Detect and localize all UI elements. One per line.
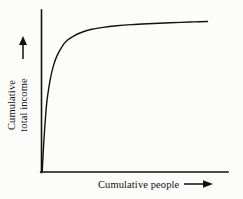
y-axis-label-group: Cumulative total income (6, 34, 40, 160)
arrow-right-icon (184, 178, 214, 190)
x-axis-label-group: Cumulative people (98, 176, 214, 192)
y-axis-label-line-1: Cumulative (6, 44, 18, 166)
y-axis-label-line-2: total income (18, 44, 30, 166)
y-axis-label: Cumulative total income (6, 44, 40, 166)
cumulative-income-chart: Cumulative total income Cumulative peopl… (0, 0, 243, 199)
income-curve (42, 21, 207, 171)
x-axis-label: Cumulative people (98, 178, 179, 191)
